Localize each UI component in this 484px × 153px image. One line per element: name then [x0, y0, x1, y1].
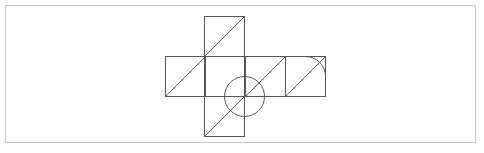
canvas-frame — [0, 0, 484, 153]
geometric-figure — [0, 0, 484, 153]
